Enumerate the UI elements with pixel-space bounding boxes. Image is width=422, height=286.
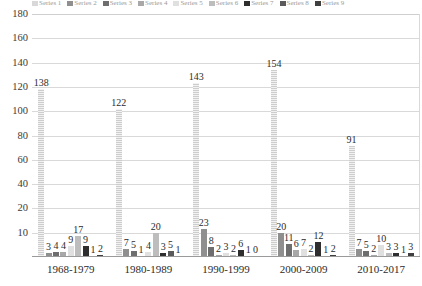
bar-group-bars: 138344917912 [37,14,104,257]
legend-label: Series 3 [110,0,132,7]
legend-item[interactable]: Series 5 [173,0,202,7]
bar-slot: 5 [167,14,174,257]
legend-swatch [280,1,286,6]
bar-slot: 2 [97,14,104,257]
legend-swatch [138,1,144,6]
bar-value-label: 3 [46,242,51,252]
bar-value-label: 1 [246,245,251,255]
legend-item[interactable]: Series 6 [209,0,238,7]
bar[interactable]: 17 [75,236,81,257]
bar-value-label: 5 [168,240,173,250]
bar-value-label: 2 [331,244,336,254]
bar[interactable]: 11 [286,244,292,257]
bar-value-label: 1 [176,245,181,255]
chart-legend-cropped: Series 1Series 2Series 3Series 4Series 5… [32,0,420,7]
bar-value-label: 2 [98,244,103,254]
legend-item[interactable]: Series 9 [315,0,344,7]
bar-slot: 3 [45,14,52,257]
bar-value-label: 2 [308,244,313,254]
x-axis-category-labels: 1968-19791980-19891990-19992000-20092010… [32,262,420,282]
y-axis-tick-label: 180 [0,9,28,19]
x-axis-line [32,256,420,257]
legend-label: Series 7 [251,0,273,7]
legend-item[interactable]: Series 7 [244,0,273,7]
legend-item[interactable]: Series 3 [103,0,132,7]
bar-slot: 1 [174,14,181,257]
x-axis-category-label: 1968-1979 [32,262,110,282]
bar[interactable]: 138 [38,89,44,257]
legend-item[interactable]: Series 1 [32,0,61,7]
legend-label: Series 5 [180,0,202,7]
legend-swatch [244,1,250,6]
y-axis-tick-label: 60 [0,155,28,165]
bar-slot: 6 [292,14,299,257]
bar-group-bars: 15420116721212 [270,14,337,257]
bar-group-bars: 143238232610 [193,14,260,257]
legend-item[interactable]: Series 4 [138,0,167,7]
bar[interactable]: 143 [193,83,199,257]
legend-label: Series 9 [322,0,344,7]
bar-slot: 5 [130,14,137,257]
bar-value-label: 7 [356,238,361,248]
y-axis-tick-label: 120 [0,82,28,92]
legend-item[interactable]: Series 8 [280,0,309,7]
bar-value-label: 1 [91,245,96,255]
bar-value-label: 2 [231,244,236,254]
legend-label: Series 8 [287,0,309,7]
bar[interactable]: 20 [153,233,159,257]
legend-swatch [173,1,179,6]
bar-slot: 1 [245,14,252,257]
bar-group: 91752103313 [342,14,420,257]
bar-value-label: 4 [146,241,151,251]
bar-slot: 0 [252,14,259,257]
bar-slot: 20 [278,14,285,257]
bar-slot: 8 [207,14,214,257]
x-axis-category-label: 1980-1989 [110,262,188,282]
bar-value-label: 4 [53,241,58,251]
bar[interactable]: 12 [315,242,321,257]
bar-slot: 3 [407,14,414,257]
bar-slot: 12 [315,14,322,257]
bar-value-label: 2 [216,244,221,254]
bar-value-label: 8 [209,236,214,246]
legend-label: Series 1 [39,0,61,7]
bar-slot: 1 [400,14,407,257]
bar-group: 138344917912 [32,14,110,257]
bar-slot: 138 [37,14,44,257]
legend-item[interactable]: Series 2 [67,0,96,7]
x-axis-category-label: 2000-2009 [265,262,343,282]
bar-value-label: 7 [301,238,306,248]
bar-value-label: 4 [61,241,66,251]
bar[interactable]: 23 [201,229,207,257]
bar-slot: 2 [330,14,337,257]
bar-value-label: 3 [386,242,391,252]
bar-slot: 1 [322,14,329,257]
bar-slot: 1 [137,14,144,257]
bar-slot: 2 [215,14,222,257]
bar-group-bars: 91752103313 [348,14,415,257]
bar-group: 122751420351 [110,14,188,257]
bar-value-label: 7 [124,238,129,248]
bar-group: 143238232610 [187,14,265,257]
bar-slot: 20 [152,14,159,257]
y-axis-tick-label: 40 [0,179,28,189]
bar[interactable]: 91 [349,146,355,257]
y-axis-tick-label: 140 [0,58,28,68]
bar-slot: 1 [89,14,96,257]
bar-value-label: 6 [294,239,299,249]
legend-swatch [315,1,321,6]
y-axis-tick-label: 20 [0,203,28,213]
bar-slot: 7 [355,14,362,257]
y-axis-tick-label: 10 [0,228,28,238]
bar-group-bars: 122751420351 [115,14,182,257]
bar-groups: 1383449179121227514203511432382326101542… [32,14,420,257]
bar-slot: 9 [67,14,74,257]
legend-swatch [103,1,109,6]
legend-swatch [32,1,38,6]
y-axis-tick-label: 80 [0,131,28,141]
y-axis-tick-label: 160 [0,33,28,43]
bar-slot: 2 [307,14,314,257]
bar-value-label: 6 [238,239,243,249]
bar-value-label: 3 [161,242,166,252]
bar[interactable]: 122 [116,109,122,257]
